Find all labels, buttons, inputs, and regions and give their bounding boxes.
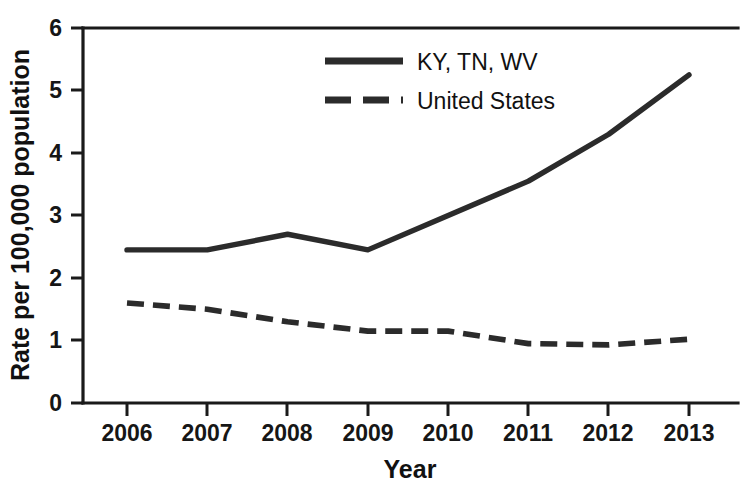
legend-label-united-states: United States	[417, 88, 555, 114]
y-tick-label-6: 6	[49, 15, 62, 41]
x-tick-label-2009: 2009	[342, 420, 393, 446]
x-tick-label-2010: 2010	[422, 420, 473, 446]
chart-background	[0, 0, 746, 485]
line-chart-figure: 6 5 4 3 2 1 0 2006 2007 2008 2009 2010 2…	[0, 0, 746, 485]
legend-label-ky-tn-wv: KY, TN, WV	[417, 49, 538, 75]
chart-canvas: 6 5 4 3 2 1 0 2006 2007 2008 2009 2010 2…	[0, 0, 746, 485]
x-tick-label-2006: 2006	[101, 420, 152, 446]
y-tick-label-1: 1	[49, 327, 62, 353]
x-tick-label-2011: 2011	[503, 420, 553, 446]
y-tick-label-5: 5	[49, 77, 62, 103]
y-tick-label-0: 0	[49, 390, 62, 416]
x-axis-title: Year	[384, 455, 437, 483]
x-tick-label-2007: 2007	[181, 420, 232, 446]
y-tick-label-2: 2	[49, 265, 62, 291]
x-tick-label-2013: 2013	[663, 420, 714, 446]
y-tick-label-3: 3	[49, 202, 62, 228]
y-axis-title: Rate per 100,000 population	[6, 49, 34, 381]
x-tick-label-2012: 2012	[582, 420, 633, 446]
y-tick-label-4: 4	[49, 140, 62, 166]
x-tick-label-2008: 2008	[261, 420, 312, 446]
